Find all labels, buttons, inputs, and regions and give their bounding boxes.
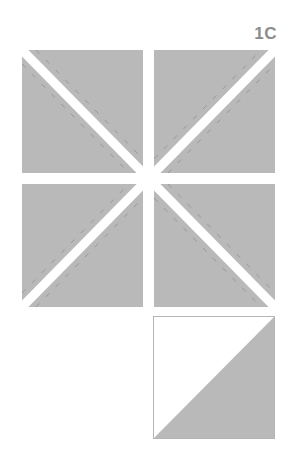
top-right-square — [154, 50, 275, 173]
bottom-right-square — [154, 184, 275, 307]
half-square-triangle-unit — [154, 317, 275, 439]
top-left-square — [22, 50, 143, 173]
bottom-left-square — [22, 184, 143, 307]
hst-cutting-diagram — [0, 0, 299, 467]
